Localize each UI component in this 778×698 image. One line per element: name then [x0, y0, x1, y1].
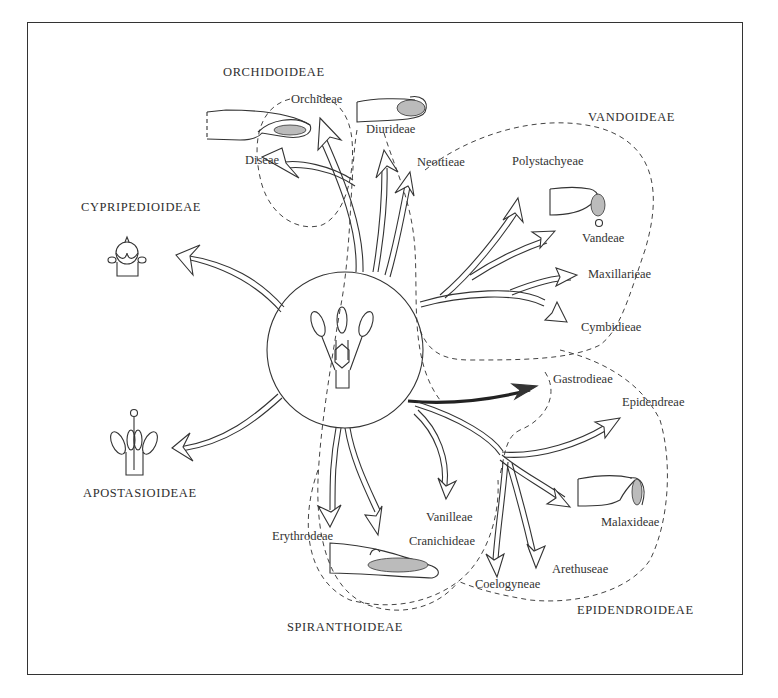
arrows-spiranthoideae	[318, 428, 382, 535]
label-vanilleae: Vanilleae	[426, 511, 473, 524]
label-arethuseae: Arethuseae	[552, 563, 608, 576]
label-erythrodeae: Erythrodeae	[272, 530, 333, 543]
label-cranichideae: Cranichideae	[409, 535, 475, 548]
label-orchidoideae: ORCHIDOIDEAE	[223, 66, 325, 79]
label-cymbidieae: Cymbidieae	[581, 321, 641, 334]
arrow-apostasioideae	[172, 394, 282, 461]
ancestral-column-icon	[308, 307, 376, 388]
column-icon-cypripedioideae	[108, 237, 146, 276]
label-spiranthoideae: SPIRANTHOIDEAE	[287, 621, 403, 634]
label-apostasioideae: APOSTASIOIDEAE	[83, 487, 197, 500]
label-vandoideae: VANDOIDEAE	[588, 111, 675, 124]
label-cypripedioideae: CYPRIPEDIOIDEAE	[81, 201, 201, 214]
orchid-phylogeny-diagram: ORCHIDOIDEAE VANDOIDEAE CYPRIPEDIOIDEAE …	[0, 0, 778, 698]
column-icon-diurideae	[357, 97, 426, 122]
label-diseae: Diseae	[245, 154, 279, 167]
arrow-cypripedioideae	[176, 245, 284, 312]
label-epidendreae: Epidendreae	[622, 396, 684, 409]
label-malaxideae: Malaxideae	[601, 516, 659, 529]
column-icon-cranichideae	[330, 543, 438, 578]
column-icon-malaxideae	[578, 475, 644, 506]
column-icon-apostasioideae	[107, 410, 160, 476]
label-vandeae: Vandeae	[582, 232, 624, 245]
arrows-epidendroideae	[408, 384, 620, 577]
column-icon-vandeae	[550, 188, 605, 227]
label-epidendroideae: EPIDENDROIDEAE	[577, 604, 694, 617]
column-icon-diseae	[207, 110, 311, 140]
label-diurideae: Diurideae	[366, 123, 415, 136]
label-orchideae: Orchideae	[291, 93, 342, 106]
label-polystachyeae: Polystachyeae	[512, 155, 584, 168]
label-neottieae: Neottieae	[417, 156, 465, 169]
center-column-circle	[267, 272, 423, 428]
label-maxillarieae: Maxillarieae	[588, 268, 651, 281]
arrows-vandoideae	[420, 198, 577, 322]
label-gastrodieae: Gastrodieae	[553, 373, 613, 386]
arrows-orchidoideae	[262, 118, 414, 277]
label-coelogyneae: Coelogyneae	[475, 578, 540, 591]
diagram-graphics	[0, 0, 778, 698]
